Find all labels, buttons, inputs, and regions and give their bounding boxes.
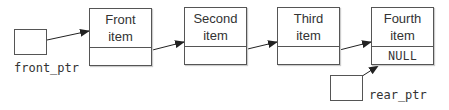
node-data: Front item — [90, 9, 151, 48]
node-front: Front item — [89, 8, 152, 66]
node-next-null: NULL — [372, 47, 433, 66]
node-subtitle: item — [390, 27, 415, 44]
node-title: Second — [193, 10, 237, 27]
node-title: Third — [294, 10, 324, 27]
node-data: Fourth item — [372, 8, 433, 47]
node-next — [90, 48, 151, 67]
node-title: Fourth — [384, 10, 422, 27]
node-subtitle: item — [203, 27, 228, 44]
front-ptr-label: front_ptr — [14, 61, 79, 75]
node-subtitle: item — [108, 28, 133, 45]
rear-ptr-box — [330, 75, 363, 101]
node-fourth: Fourth item NULL — [371, 7, 434, 65]
rear-ptr-label: rear_ptr — [369, 88, 427, 102]
node-next — [185, 47, 246, 66]
node-data: Second item — [185, 8, 246, 47]
node-subtitle: item — [296, 27, 321, 44]
node-third: Third item — [277, 7, 340, 65]
node-title: Front — [105, 11, 135, 28]
node-second: Second item — [184, 7, 247, 65]
front-ptr-box — [14, 29, 47, 55]
node-data: Third item — [278, 8, 339, 47]
node-next — [278, 47, 339, 66]
